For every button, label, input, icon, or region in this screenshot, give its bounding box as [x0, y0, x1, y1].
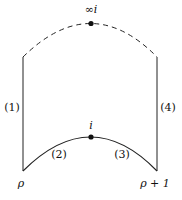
label-rho-plus-1: ρ + 1	[140, 178, 170, 190]
fundamental-domain-diagram: ∞i (1) (4) i (2) (3) ρ ρ + 1	[0, 0, 182, 200]
label-edge-4: (4)	[160, 102, 176, 114]
label-edge-1: (1)	[4, 102, 20, 114]
label-infinity-i: ∞i	[85, 4, 98, 16]
bottom-arc	[23, 137, 157, 171]
label-i: i	[89, 120, 93, 132]
diagram-canvas	[0, 0, 182, 200]
i-point-dot	[88, 134, 93, 139]
label-edge-3: (3)	[114, 149, 130, 161]
infinity-point-dot	[88, 21, 93, 26]
dashed-top-arc	[23, 24, 157, 58]
label-edge-2: (2)	[51, 149, 67, 161]
label-rho: ρ	[18, 178, 24, 190]
